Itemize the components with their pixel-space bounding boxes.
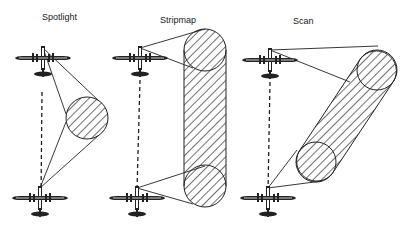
panel-spotlight	[12, 46, 108, 217]
aircraft-icon	[112, 46, 168, 77]
aircraft-icon	[12, 186, 68, 217]
aircraft-icon	[15, 46, 71, 77]
aircraft-icon	[109, 186, 165, 217]
flight-path-dashed	[137, 80, 140, 190]
panel-scan	[240, 46, 397, 217]
sar-modes-diagram: Spotlight Stripmap Scan	[0, 0, 407, 234]
aircraft-icon	[240, 186, 296, 217]
scan-swath	[297, 51, 397, 181]
flight-path-dashed	[268, 82, 270, 192]
aircraft-icon	[242, 48, 298, 79]
panel-stripmap	[109, 29, 226, 217]
spotlight-footprint	[66, 97, 108, 139]
stripmap-swath	[184, 29, 226, 207]
diagram-canvas	[0, 0, 407, 234]
